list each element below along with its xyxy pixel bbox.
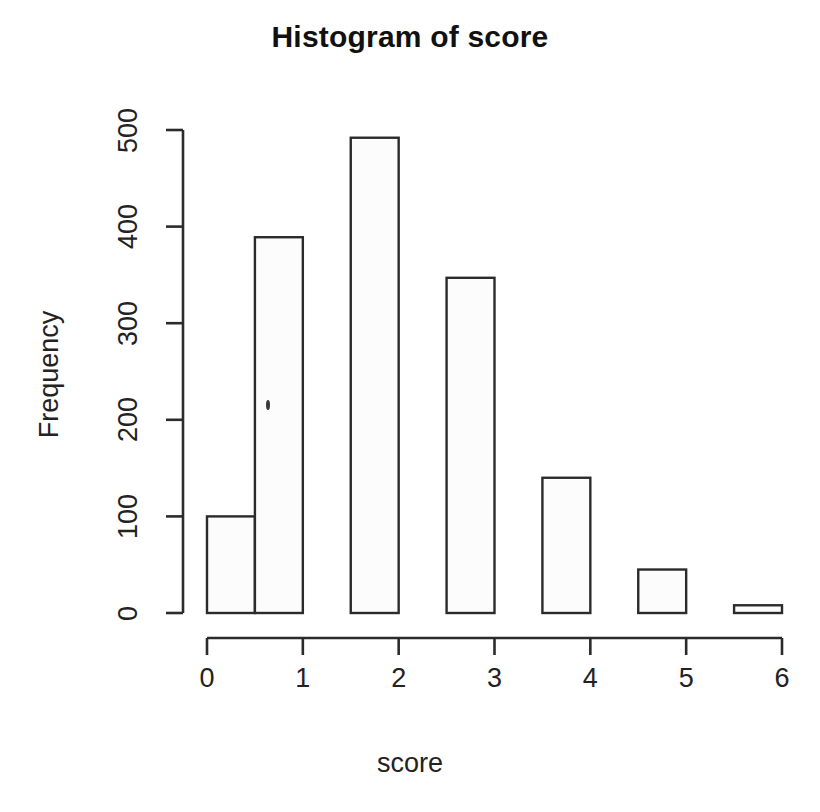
- histogram-bar: [542, 478, 590, 613]
- x-axis-tick-label: 1: [283, 663, 323, 694]
- histogram-plot: Histogram of score Frequency score 01002…: [0, 0, 820, 812]
- histogram-bar: [638, 570, 686, 613]
- y-axis-tick-label-text: 100: [114, 494, 145, 539]
- y-axis-tick-label-text: 200: [114, 397, 145, 442]
- scan-speck: [266, 400, 270, 410]
- y-axis-tick-label-text: 500: [114, 107, 145, 152]
- histogram-bar: [255, 237, 303, 613]
- x-axis-tick-label: 6: [762, 663, 802, 694]
- y-axis-tick-label: 100: [94, 503, 164, 529]
- x-axis-tick-label: 2: [379, 663, 419, 694]
- histogram-bar: [447, 278, 495, 613]
- x-axis-tick-label: 0: [187, 663, 227, 694]
- bars-group: [207, 138, 782, 613]
- x-axis-tick-label: 4: [570, 663, 610, 694]
- y-axis-tick-label: 500: [94, 117, 164, 143]
- y-axis-tick-label: 0: [94, 600, 164, 626]
- y-axis-tick-label: 300: [94, 310, 164, 336]
- y-axis-tick-label-text: 300: [114, 301, 145, 346]
- histogram-bar: [734, 605, 782, 613]
- x-axis-tick-label: 5: [666, 663, 706, 694]
- histogram-bar: [351, 138, 399, 613]
- y-axis: [166, 130, 183, 613]
- y-axis-tick-label-text: 400: [114, 204, 145, 249]
- x-axis-tick-label: 3: [475, 663, 515, 694]
- y-axis-tick-label-text: 0: [114, 605, 145, 620]
- histogram-bar: [207, 516, 255, 613]
- y-axis-tick-label: 200: [94, 407, 164, 433]
- y-axis-tick-label: 400: [94, 214, 164, 240]
- x-axis: [207, 638, 782, 655]
